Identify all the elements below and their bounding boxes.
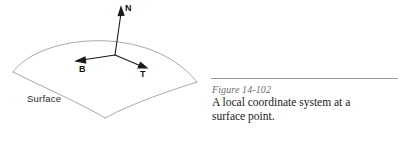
- figure-number: Figure 14-102: [212, 84, 271, 95]
- figure-caption-text: A local coordinate system at a surface p…: [212, 96, 412, 123]
- tangent-vector-arrow: [115, 55, 147, 68]
- caption-line-1: A local coordinate system at a: [212, 96, 412, 110]
- surface-diagram-svg: [0, 0, 210, 142]
- tangent-vector-label: T: [140, 69, 146, 79]
- surface-edge-bottom-right: [105, 82, 197, 118]
- caption-divider: [211, 78, 398, 79]
- binormal-vector-label: B: [79, 64, 86, 74]
- surface-edge-top: [13, 41, 197, 82]
- normal-vector-label: N: [125, 3, 132, 13]
- normal-vector-arrow: [115, 7, 124, 55]
- figure-caption-block: Figure 14-102 A local coordinate system …: [211, 0, 420, 142]
- binormal-vector-arrow: [76, 55, 115, 63]
- figure-illustration: N B T Surface: [0, 0, 210, 142]
- caption-line-2: surface point.: [212, 110, 412, 124]
- surface-label: Surface: [27, 93, 61, 104]
- surface-patch-outline: [13, 41, 197, 118]
- local-coordinate-frame: [76, 7, 147, 68]
